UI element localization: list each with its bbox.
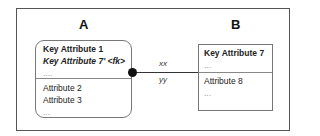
entity-b-key-ellipsis: ... (204, 59, 264, 71)
entity-b-attr-8: Attribute 8 (204, 75, 243, 87)
relationship-many-dot-icon (128, 68, 137, 77)
entity-b-divider (199, 72, 272, 73)
entity-a-box: Key Attribute 1 Key Attribute 7' <fk> ..… (35, 40, 132, 118)
entity-b-title: B (231, 17, 240, 32)
entity-b-attr-ellipsis: ... (204, 87, 243, 99)
relationship-label-bottom: yy (159, 75, 167, 84)
entity-b-box: Key Attribute 7 ... Attribute 8 ... (198, 44, 273, 111)
entity-a-key-fk: Key Attribute 7' <fk> (43, 55, 125, 67)
entity-b-key-7: Key Attribute 7 (204, 47, 264, 59)
entity-a-title: A (79, 17, 88, 32)
entity-a-attr-2: Attribute 2 (43, 82, 82, 94)
relationship-line (134, 72, 198, 73)
relationship-label-top: xx (159, 59, 167, 68)
entity-a-divider (36, 78, 131, 79)
entity-a-attr-ellipsis: ... (43, 106, 82, 118)
entity-a-attr-3: Attribute 3 (43, 94, 82, 106)
entity-a-key-1: Key Attribute 1 (43, 43, 125, 55)
